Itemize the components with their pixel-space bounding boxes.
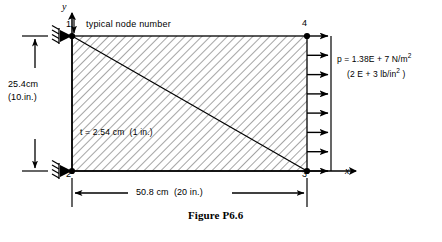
typical-node-number-annotation: typical node number (86, 20, 171, 29)
pressure-label-line-1: p = 1.38E + 7 N/m2 (337, 55, 411, 64)
node-label-3: 3 (302, 170, 307, 179)
thickness-annotation: t = 2.54 cm (1 in.) (80, 128, 153, 137)
figure-drawing (0, 0, 442, 242)
height-dimension-metric: 25.4cm (8, 80, 38, 89)
node-label-4: 4 (302, 19, 307, 28)
node-dot-1 (69, 33, 75, 39)
x-axis-label: x (345, 166, 349, 177)
pressure-line-2-suffix: ) (400, 69, 405, 79)
pressure-line-1-exponent: 2 (408, 52, 412, 59)
y-axis-label: y (62, 2, 66, 13)
width-dimension: 50.8 cm (20 in.) (136, 188, 203, 197)
pressure-label-line-2: (2 E + 3 lb/in2 ) (347, 70, 405, 79)
figure-caption: Figure P6.6 (188, 210, 243, 222)
pressure-line-2-text: (2 E + 3 lb/in (347, 69, 396, 79)
node-label-1: 1 (66, 20, 71, 29)
pressure-load-arrows (307, 36, 331, 171)
vertical-dimension (22, 36, 48, 171)
height-dimension-imperial: (10.in.) (8, 93, 37, 102)
node-label-2: 2 (66, 170, 71, 179)
pressure-line-1-text: p = 1.38E + 7 N/m (337, 54, 408, 64)
figure-container: y x 1 2 3 4 typical node number 25.4cm (… (0, 0, 442, 242)
